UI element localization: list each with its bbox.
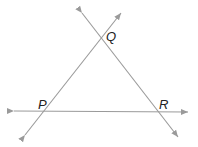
line-qr <box>82 13 178 137</box>
lines-figure <box>0 0 198 147</box>
diagram-canvas: Q P R <box>0 0 198 147</box>
label-q: Q <box>106 30 116 43</box>
label-p: P <box>38 98 47 111</box>
label-r: R <box>159 98 168 111</box>
